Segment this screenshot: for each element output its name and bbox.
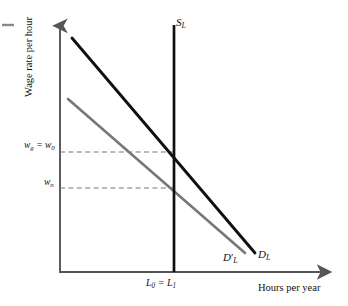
wage-net-subscript: n — [50, 181, 53, 188]
demand-curve — [72, 38, 255, 253]
labor-market-diagram: Wage rate per hour Hours per year SL DL … — [0, 0, 348, 306]
y-tick-label-wage-net: wn — [44, 178, 54, 189]
wage-equals-sign: = — [36, 140, 42, 150]
y-axis-title: Wage rate per hour — [24, 17, 35, 97]
supply-curve-label-subscript: L — [182, 21, 186, 30]
supply-curve-label: SL — [176, 17, 186, 30]
x-tick-label-labor: L0 = L1 — [146, 278, 176, 290]
wage-gross-subscript: g — [30, 144, 33, 151]
diagram-canvas — [0, 0, 348, 306]
labor-equals-sign: = — [158, 277, 165, 288]
y-tick-label-wage-gross: wg = w0 — [24, 141, 55, 152]
x-axis-title: Hours per year — [258, 283, 320, 294]
labor-one-subscript: 1 — [172, 282, 176, 290]
demand-curve-label: DL — [258, 249, 270, 262]
demand-curve-shifted-label-subscript: L — [233, 256, 237, 265]
wage-zero-subscript: 0 — [51, 144, 54, 151]
demand-curve-shifted — [68, 99, 245, 253]
demand-curve-shifted-label-letter: D — [223, 251, 231, 263]
demand-curve-shifted-label: D′L — [223, 252, 238, 265]
demand-curve-label-subscript: L — [266, 253, 270, 262]
demand-curve-label-letter: D — [258, 248, 266, 260]
labor-zero-subscript: 0 — [152, 282, 156, 290]
